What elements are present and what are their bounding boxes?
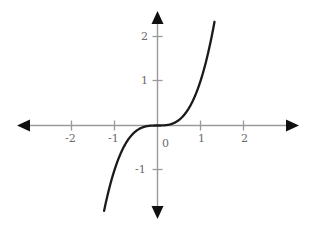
arrow-left-icon (17, 120, 30, 132)
axes-group (24, 18, 292, 212)
y-tick-label-1: 1 (141, 75, 148, 86)
origin-label: 0 (162, 138, 169, 149)
y-tick-label-2: 2 (141, 31, 148, 42)
cubic-function-plot (0, 0, 316, 229)
arrow-right-icon (286, 120, 299, 132)
graph-figure: -2 -1 1 2 2 1 -1 0 (0, 0, 316, 229)
function-curve (104, 22, 214, 211)
arrow-down-icon (152, 206, 164, 219)
y-tick-label--1: -1 (135, 164, 146, 175)
x-tick-label-1: 1 (198, 133, 205, 144)
arrow-up-icon (152, 11, 164, 24)
x-tick-label--2: -2 (65, 133, 76, 144)
x-tick-label--1: -1 (108, 133, 119, 144)
x-tick-label-2: 2 (241, 133, 248, 144)
